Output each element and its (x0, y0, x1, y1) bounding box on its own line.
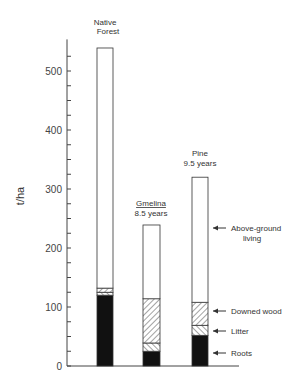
category-label-line2: 9.5 years (184, 159, 217, 168)
segment-roots (192, 335, 208, 366)
segment-above-ground-living (192, 177, 208, 302)
segment-litter (97, 292, 113, 295)
y-tick-label: 300 (45, 184, 62, 195)
category-label-line2: 8.5 years (135, 209, 168, 218)
bar-native-forest (97, 48, 113, 366)
legend-label: Litter (231, 327, 249, 336)
legend-label: Roots (231, 349, 252, 358)
legend-label-line2: living (243, 234, 261, 243)
bar-gmelina-8-5-years (143, 225, 160, 366)
segment-above-ground-living (143, 225, 160, 299)
legend-entry: Roots (213, 349, 252, 358)
segment-litter (192, 325, 208, 335)
segment-litter (143, 343, 160, 351)
segment-above-ground-living (97, 48, 113, 288)
segment-downed-wood (143, 299, 160, 343)
legend-label: Downed wood (231, 307, 282, 316)
stacked-bar-chart: 0100200300400500t/ha NativeForestGmelina… (0, 0, 302, 381)
segment-roots (143, 351, 160, 366)
bar-pine-9-5-years (192, 177, 208, 366)
category-label-line1: Gmelina (136, 199, 166, 208)
category-label-line1: Pine (192, 149, 209, 158)
y-tick-label: 400 (45, 125, 62, 136)
segment-downed-wood (97, 288, 113, 292)
legend-label: Above-ground (231, 224, 281, 233)
category-label-line2: Forest (97, 27, 120, 36)
segment-roots (97, 295, 113, 366)
legend-entry: Litter (213, 327, 249, 336)
y-axis-label: t/ha (14, 186, 26, 205)
y-tick-label: 500 (45, 66, 62, 77)
legend: Above-groundlivingDowned woodLitterRoots (213, 224, 282, 358)
y-tick-label: 100 (45, 302, 62, 313)
y-tick-label: 200 (45, 243, 62, 254)
legend-entry: Downed wood (213, 307, 282, 316)
segment-downed-wood (192, 302, 208, 325)
category-label-line1: Native (94, 18, 117, 27)
y-tick-label: 0 (56, 361, 62, 372)
legend-entry: Above-groundliving (213, 224, 281, 243)
